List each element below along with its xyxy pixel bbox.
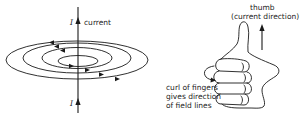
current-arrow-bottom-icon <box>75 98 80 105</box>
field-arrows <box>49 40 120 81</box>
arrow-left-icon <box>54 44 59 48</box>
arrow-right-icon <box>99 72 104 76</box>
curl-label-line-2: gives direction <box>166 92 221 101</box>
thumb-direction-arrow <box>259 24 264 50</box>
field-line-3 <box>42 48 112 69</box>
current-arrow-top-icon <box>75 17 80 24</box>
wire <box>75 7 80 113</box>
current-symbol-top: I <box>70 18 73 27</box>
thumb-label: thumb <box>250 3 275 12</box>
arrow-right-icon <box>115 77 120 81</box>
curl-label-line-3: of field lines <box>166 101 212 110</box>
arrow-left-icon <box>49 40 54 44</box>
current-label: current <box>84 18 111 27</box>
arrow-right-icon <box>69 64 74 68</box>
field-lines <box>6 41 148 79</box>
current-symbol-bottom: I <box>70 99 73 108</box>
curl-label-line-1: curl of fingers <box>166 83 218 92</box>
thumb-sub-label: (current direction) <box>231 12 299 21</box>
